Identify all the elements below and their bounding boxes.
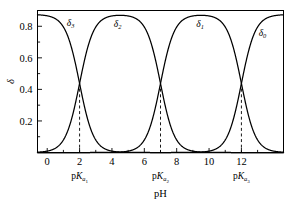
- x-tick-label: 6: [142, 156, 147, 167]
- y-tick-label: 0.4: [19, 84, 33, 95]
- chart-background: [0, 0, 294, 204]
- x-tick-label: 8: [174, 156, 179, 167]
- y-tick-label: 0.8: [19, 21, 32, 32]
- x-tick-label: 10: [204, 156, 215, 167]
- x-tick-label: 12: [236, 156, 247, 167]
- x-tick-label: 0: [45, 156, 50, 167]
- y-tick-label: 0.2: [19, 116, 32, 127]
- x-tick-label: 2: [77, 156, 82, 167]
- x-axis-title: pH: [154, 188, 167, 199]
- y-tick-label: 0.6: [19, 53, 32, 64]
- x-tick-label: 4: [109, 156, 115, 167]
- speciation-diagram: 024681012 0.20.40.60.8 δ3δ2δ1δ0 pKa1pKa2…: [0, 0, 294, 204]
